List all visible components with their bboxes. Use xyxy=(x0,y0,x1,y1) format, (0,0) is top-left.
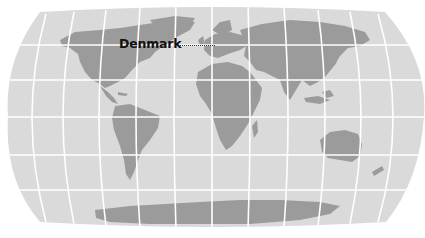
denmark-label: Denmark xyxy=(119,37,181,51)
denmark-leader-line xyxy=(177,45,215,46)
world-map xyxy=(0,0,425,238)
